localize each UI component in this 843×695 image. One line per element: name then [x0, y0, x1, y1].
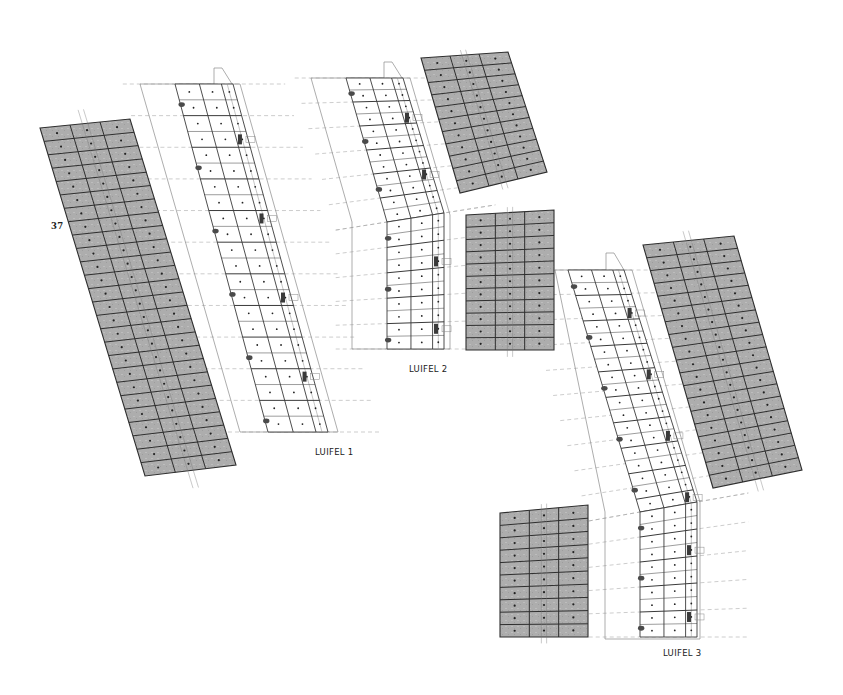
luifel-2-frame-top [346, 78, 444, 222]
anchor-bolt-icon [638, 626, 644, 631]
bracket-icon [434, 324, 438, 334]
bracket-icon [281, 293, 285, 303]
anchor-bolt-icon [631, 488, 637, 493]
anchor-bolt-icon [385, 236, 391, 241]
technical-drawing-canvas [0, 0, 843, 695]
luifel-3-label: LUIFEL 3 [663, 648, 702, 658]
anchor-bolt-icon [348, 91, 354, 96]
bracket-icon [687, 545, 691, 555]
anchor-bolt-icon [229, 292, 235, 297]
luifel-2-frame-bottom [385, 213, 451, 349]
luifel-2-roof-panels-bottom [466, 207, 554, 357]
anchor-bolt-icon [638, 576, 644, 581]
anchor-bolt-icon [263, 419, 269, 424]
bracket-icon [303, 372, 307, 382]
anchor-bolt-icon [212, 229, 218, 234]
bracket-icon [628, 308, 632, 318]
luifel-2-label: LUIFEL 2 [409, 364, 448, 374]
anchor-bolt-icon [385, 338, 391, 343]
luifel-2-roof-panels-top [421, 50, 547, 193]
luifel-3-frame-bottom [638, 502, 704, 637]
bracket-icon [238, 134, 242, 144]
anchor-bolt-icon [638, 526, 644, 531]
bracket-icon [647, 369, 651, 379]
anchor-bolt-icon [246, 355, 252, 360]
anchor-bolt-icon [178, 102, 184, 107]
luifel-3-roof-panels-bottom [500, 504, 588, 644]
anchor-bolt-icon [616, 437, 622, 442]
bracket-icon [259, 213, 263, 223]
anchor-bolt-icon [586, 335, 592, 340]
anchor-bolt-icon [571, 284, 577, 289]
luifel-1-label: LUIFEL 1 [315, 447, 354, 457]
anchor-bolt-icon [376, 187, 382, 192]
anchor-bolt-icon [362, 139, 368, 144]
bracket-icon [434, 256, 438, 266]
reference-number-label: 37 [51, 221, 63, 231]
bracket-icon [685, 492, 689, 502]
bracket-icon [687, 612, 691, 622]
anchor-bolt-icon [385, 287, 391, 292]
bracket-icon [405, 113, 409, 123]
bracket-icon [422, 170, 426, 180]
anchor-bolt-icon [601, 386, 607, 391]
canopy-frame-grids [175, 78, 704, 637]
anchor-bolt-icon [195, 165, 201, 170]
bracket-icon [666, 431, 670, 441]
